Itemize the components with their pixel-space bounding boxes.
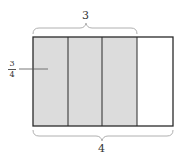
fraction-numerator: 3 (9, 59, 14, 68)
side-fraction: 3 4 (8, 60, 16, 79)
shaded-region (33, 37, 137, 126)
fraction-denominator: 4 (9, 70, 14, 79)
bottom-brace-label: 4 (98, 143, 105, 154)
fraction-area-diagram: 3 4 3 4 (0, 0, 182, 160)
top-brace-label: 3 (82, 10, 89, 21)
diagram-canvas (0, 0, 182, 160)
top-brace (33, 23, 137, 34)
bottom-brace (33, 130, 173, 141)
